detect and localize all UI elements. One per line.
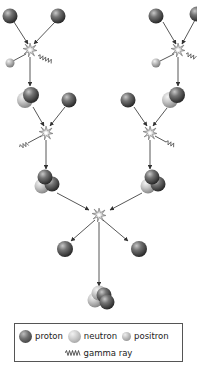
legend: proton neutron positron gamma ray [14,323,183,362]
deuterium-icon [162,87,185,108]
proton-icon [51,9,66,24]
gamma-ray-icon [37,54,52,63]
positron-icon [122,332,131,341]
proton-icon [19,330,32,343]
positron-icon [152,59,161,68]
legend-row-particles: proton neutron positron [19,329,180,343]
proton-icon [190,7,198,22]
fusion-flash-icon [92,208,106,222]
proton-icon [57,241,73,257]
positron-icon [6,59,15,68]
helium3-right [141,170,166,194]
legend-proton-label: proton [35,331,63,341]
gamma-ray-icon [65,350,81,356]
legend-positron: positron [122,331,169,341]
fusion-diagram [0,0,197,366]
legend-positron-label: positron [134,331,169,341]
legend-neutron-label: neutron [84,331,117,341]
right-step2 [121,87,186,169]
gamma-ray-icon [19,142,29,149]
step3 [57,193,147,310]
legend-proton: proton [19,330,63,343]
gamma-ray-icon [165,140,175,147]
legend-gamma-label: gamma ray [84,348,133,358]
legend-neutron: neutron [68,330,117,343]
fusion-flash-icon [143,126,157,140]
proton-icon [3,9,18,24]
helium4-icon [88,286,115,310]
deuterium-icon [17,87,39,108]
left-step2 [17,87,77,169]
fusion-flash-icon [39,126,53,140]
neutron-icon [68,330,81,343]
gamma-ray-icon [185,52,196,60]
left-step1 [3,9,66,87]
helium3-left [35,170,60,194]
proton-icon [131,241,147,257]
proton-icon [149,9,164,24]
legend-row-gamma: gamma ray [15,346,182,359]
proton-icon [121,93,136,108]
proton-icon [62,93,77,108]
right-step1 [149,7,198,87]
